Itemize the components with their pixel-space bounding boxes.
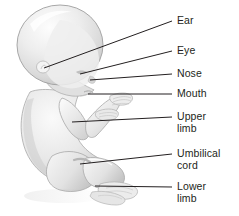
drop-shadow — [24, 189, 104, 203]
upper-limb-leader-line — [72, 117, 172, 122]
label-upper-limb: Upper limb — [177, 111, 206, 134]
label-lower-limb: Lower limb — [177, 181, 206, 204]
fetus-diagram: Ear Eye Nose Mouth Upper limb Umbilical … — [0, 0, 239, 216]
label-eye: Eye — [177, 45, 195, 57]
fetus-body-group — [17, 5, 138, 205]
nose-leader-line — [90, 74, 172, 80]
label-ear: Ear — [177, 15, 194, 27]
second-hand-shape — [95, 109, 118, 121]
label-nose: Nose — [177, 68, 202, 80]
label-mouth: Mouth — [177, 88, 207, 100]
hand-shape — [110, 93, 133, 105]
label-umbilical-cord: Umbilical cord — [177, 148, 221, 171]
